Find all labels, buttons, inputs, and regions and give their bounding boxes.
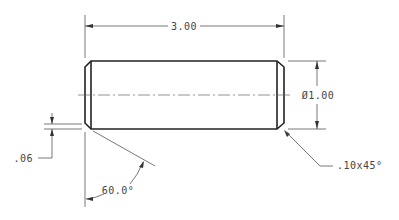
chamfer-callout: .10x45° (284, 130, 383, 171)
diameter-dimension-text: Ø1.00 (302, 90, 335, 101)
arrowhead-right (276, 24, 284, 28)
chamfer-depth-dimension: .06 (13, 113, 82, 164)
angle-arrowhead-upper (139, 161, 144, 168)
angle-arrowhead-lower (86, 197, 93, 201)
arrowhead-left (85, 24, 93, 28)
angle-extension-line (93, 131, 155, 166)
callout-leader-angled (285, 131, 320, 166)
chamfer-angle-dimension: 60.0° (85, 131, 155, 207)
chamfer-depth-text: .06 (13, 153, 33, 164)
chamfer-angle-text: 60.0° (102, 185, 135, 196)
chamfer-callout-text: .10x45° (337, 160, 383, 171)
length-dimension-text: 3.00 (171, 21, 197, 32)
depth-arrowhead-lower (50, 129, 54, 136)
arrowhead-top (315, 61, 319, 69)
length-dimension: 3.00 (85, 15, 284, 58)
arrowhead-bottom (315, 121, 319, 129)
diameter-dimension: Ø1.00 (288, 61, 334, 129)
technical-drawing: 3.00 Ø1.00 .06 60.0° .10x45° (0, 0, 399, 220)
depth-arrowhead-upper (50, 117, 54, 124)
